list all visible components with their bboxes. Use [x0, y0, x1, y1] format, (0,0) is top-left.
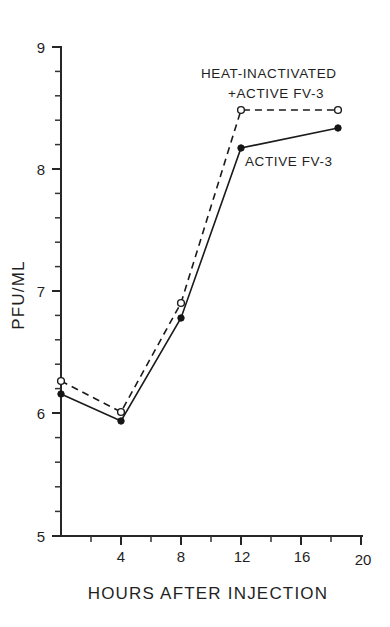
data-point-open-t8 — [178, 300, 185, 307]
series-active-markers — [58, 125, 341, 424]
annotation-active-fv3: ACTIVE FV-3 — [245, 154, 333, 169]
x-axis-title: HOURS AFTER INJECTION — [88, 584, 329, 603]
data-point-filled-t0 — [58, 391, 64, 397]
annotation-heat-inactivated-line1: HEAT-INACTIVATED — [201, 66, 337, 81]
y-axis-tick-labels: 9 8 7 6 5 — [37, 39, 45, 545]
data-point-open-t18 — [335, 107, 342, 114]
x-tick-label-16: 16 — [294, 548, 311, 565]
annotation-heat-inactivated-line2: +ACTIVE FV-3 — [228, 86, 324, 101]
series-active-fv3 — [58, 125, 341, 424]
data-point-filled-t4 — [118, 418, 124, 424]
data-point-open-t12 — [238, 107, 245, 114]
x-tick-label-8: 8 — [177, 548, 185, 565]
figure-container: 9 8 7 6 5 4 8 12 16 20 — [0, 0, 390, 627]
series-heat-inactivated-active — [58, 107, 342, 416]
y-tick-label-5: 5 — [37, 528, 45, 545]
y-tick-label-7: 7 — [37, 283, 45, 300]
data-point-open-t0 — [58, 378, 65, 385]
x-tick-label-4: 4 — [117, 548, 125, 565]
series-active-line — [61, 128, 338, 421]
data-point-open-t4 — [118, 409, 125, 416]
y-tick-label-6: 6 — [37, 405, 45, 422]
y-axis-title: PFU/ML — [9, 260, 28, 330]
series-heat-inactivated-markers — [58, 107, 342, 416]
x-axis-tick-labels: 4 8 12 16 20 — [117, 548, 372, 568]
data-point-filled-t8 — [178, 315, 184, 321]
x-tick-label-12: 12 — [234, 548, 251, 565]
x-axis-major-ticks — [121, 536, 361, 545]
axis-lines — [61, 47, 362, 536]
y-tick-label-8: 8 — [37, 161, 45, 178]
data-point-filled-t12 — [238, 145, 244, 151]
y-tick-label-9: 9 — [37, 39, 45, 56]
x-tick-label-20: 20 — [355, 551, 372, 568]
line-chart: 9 8 7 6 5 4 8 12 16 20 — [0, 0, 390, 627]
data-point-filled-t18 — [335, 125, 341, 131]
